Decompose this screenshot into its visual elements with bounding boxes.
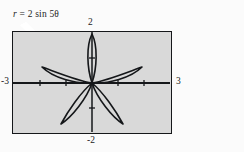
x-axis-max-label: 3 xyxy=(176,76,181,86)
equation-expression: 2 sin 5θ xyxy=(28,9,60,19)
y-axis-min-label: -2 xyxy=(87,135,95,145)
equation-label: r = 2 sin 5θ xyxy=(13,9,59,19)
plot-canvas xyxy=(13,32,170,132)
y-axis-max-label: 2 xyxy=(88,17,93,27)
x-axis-min-label: -3 xyxy=(1,76,9,86)
plot-frame xyxy=(12,31,172,134)
polar-graph-figure: r = 2 sin 5θ xyxy=(0,0,244,152)
equation-operator: = xyxy=(19,9,25,19)
